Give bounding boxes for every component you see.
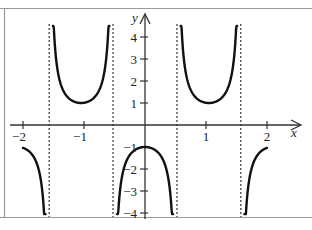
curve-branch-right-down [244, 148, 267, 214]
y-tick-label: 1 [131, 96, 138, 111]
chart-figure: −2−1124321−1−2−3−4yx [0, 0, 312, 230]
x-tick-label: 1 [203, 129, 210, 144]
y-tick-label: −1 [123, 140, 137, 155]
x-tick-label: 2 [264, 129, 271, 144]
x-tick-label: −2 [12, 129, 26, 144]
y-tick-label: 2 [131, 74, 138, 89]
y-tick-label: 4 [131, 30, 138, 45]
curve-branch-left-up [53, 26, 109, 103]
y-tick-label: −3 [123, 184, 137, 199]
y-tick-label: −4 [123, 206, 137, 221]
curve-branch-right-up [181, 26, 237, 103]
plot-area: −2−1124321−1−2−3−4yx [0, 0, 312, 230]
y-tick-label: 3 [131, 52, 138, 67]
y-axis-label: y [130, 10, 138, 25]
x-tick-label: −1 [73, 129, 87, 144]
curve-branch-left-down [23, 148, 46, 214]
x-axis-label: x [290, 125, 297, 140]
y-tick-label: −2 [123, 162, 137, 177]
